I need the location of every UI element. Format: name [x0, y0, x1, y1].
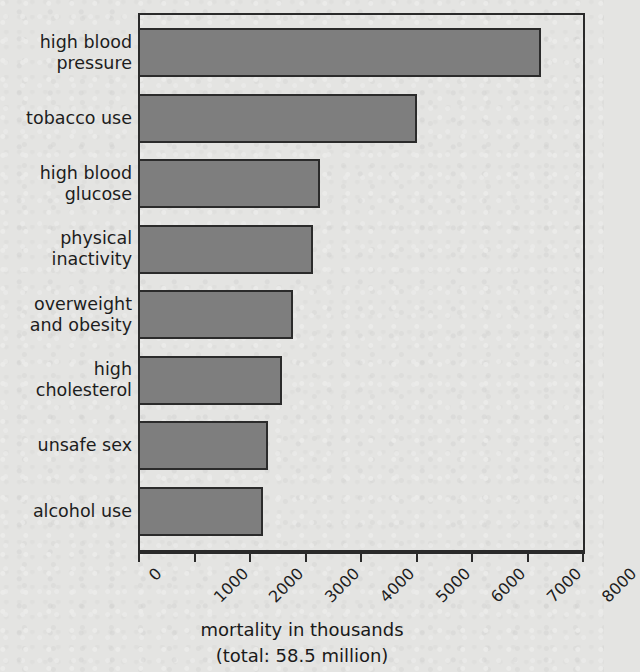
bar — [138, 356, 282, 405]
x-axis-tick — [249, 552, 251, 562]
category-label: high cholesterol — [0, 359, 132, 401]
bar — [138, 28, 541, 77]
x-axis-tick — [582, 552, 584, 562]
x-axis-tick — [305, 552, 307, 562]
category-label: physical inactivity — [0, 228, 132, 270]
x-axis-tick-label: 2000 — [265, 564, 307, 606]
bar — [138, 487, 263, 536]
x-axis-tick — [471, 552, 473, 562]
bar-row — [138, 225, 313, 274]
x-axis-tick-label: 8000 — [598, 564, 640, 606]
bar-row — [138, 421, 268, 470]
x-axis-title-sub: (total: 58.5 million) — [0, 643, 604, 669]
bar — [138, 94, 417, 143]
category-label: tobacco use — [0, 108, 132, 129]
x-axis-title-main: mortality in thousands — [200, 619, 403, 640]
x-axis-tick-label: 5000 — [432, 564, 474, 606]
bar-row — [138, 356, 282, 405]
category-label: overweight and obesity — [0, 294, 132, 336]
bar-row — [138, 28, 541, 77]
x-axis-tick-label: 4000 — [376, 564, 418, 606]
x-axis-tick-label: 1000 — [209, 564, 251, 606]
category-label: high blood pressure — [0, 32, 132, 74]
category-label: unsafe sex — [0, 435, 132, 456]
category-label: alcohol use — [0, 501, 132, 522]
x-axis-tick — [527, 552, 529, 562]
x-axis-tick — [416, 552, 418, 562]
bar — [138, 225, 313, 274]
x-axis-title: mortality in thousands (total: 58.5 mill… — [0, 617, 604, 669]
category-label: high blood glucose — [0, 163, 132, 205]
x-axis-tick-label: 3000 — [321, 564, 363, 606]
bar-row — [138, 487, 263, 536]
bar-row — [138, 94, 417, 143]
x-axis-tick-label: 7000 — [543, 564, 585, 606]
x-axis-tick — [194, 552, 196, 562]
x-axis-tick-label: 6000 — [487, 564, 529, 606]
x-axis-tick — [138, 552, 140, 562]
bar — [138, 421, 268, 470]
bar-row — [138, 159, 320, 208]
bar — [138, 159, 320, 208]
x-axis-tick — [360, 552, 362, 562]
x-axis-tick-label: 0 — [145, 564, 166, 585]
bar-row — [138, 290, 293, 339]
bar — [138, 290, 293, 339]
